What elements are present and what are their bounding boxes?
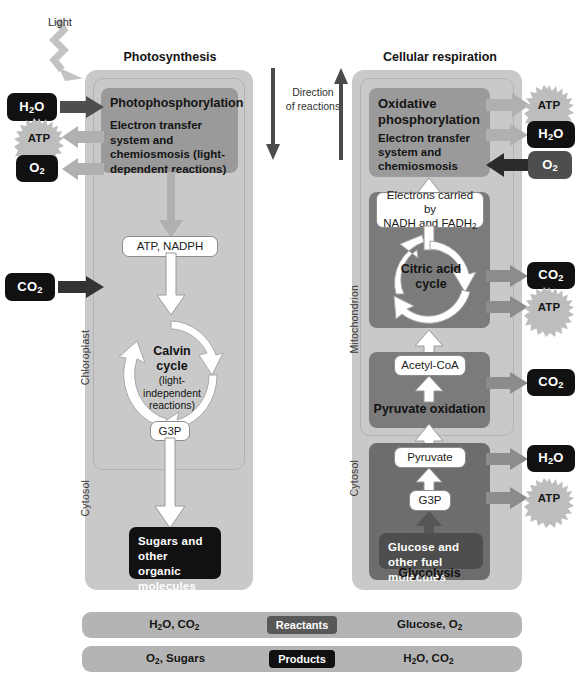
photophosphorylation-subtitle: Electron transfer system and chemiosmosi…	[110, 118, 229, 176]
citric-acid-cycle-labels: Citric acid cycle	[392, 262, 470, 292]
oxygen-input-arrow-icon	[486, 153, 530, 177]
oxphos-title-line1: Oxidative	[378, 96, 437, 111]
respiration-g3p-pill: G3P	[409, 490, 451, 511]
direction-label-line2: of reactions	[286, 100, 340, 112]
photophosphorylation-block: Photophosphorylation Electron transfer s…	[101, 88, 238, 173]
atp-output-badge: ATP	[14, 118, 64, 158]
water-input-label: H2O	[19, 99, 44, 115]
direction-down-arrow-icon	[266, 68, 280, 160]
sugars-output-box: Sugars and other organic molecules	[129, 527, 221, 579]
oxygen-output-badge: O2	[16, 155, 58, 182]
calvin-cycle-detail-line2: independent	[143, 387, 201, 399]
photophosphorylation-title: Photophosphorylation	[110, 96, 229, 111]
g3p-to-pyruvate-arrow-icon	[416, 468, 442, 492]
co2-pyruvate-output-badge: CO2	[527, 369, 575, 396]
pyruvate-oxidation-title: Pyruvate oxidation	[369, 402, 490, 416]
legend-products-left: O2, Sugars	[82, 652, 269, 666]
legend-reactants-left: H2O, CO2	[82, 618, 267, 632]
g3p-to-sugars-arrow-icon	[155, 438, 185, 528]
oxygen-input-label: O2	[542, 157, 558, 173]
respiration-cytosol-label: Cytosol	[348, 460, 362, 496]
products-badge: Products	[269, 650, 335, 668]
atp-glycolysis-output-label: ATP	[538, 492, 561, 504]
water-input-badge: H2O	[7, 93, 57, 121]
carbon-dioxide-input-badge: CO2	[5, 273, 55, 301]
citric-acid-cycle-name-line2: cycle	[415, 277, 446, 291]
calvin-cycle-labels: Calvin cycle (light- independent reactio…	[136, 344, 208, 412]
legend-products-right: H2O, CO2	[335, 652, 522, 666]
water-glycolysis-output-label: H2O	[538, 450, 563, 466]
figure-root: Photosynthesis Light Chloroplast Cytosol…	[0, 0, 588, 683]
legend-row-reactants: H2O, CO2 Reactants Glucose, O2	[82, 612, 522, 638]
legend-reactants-right: Glucose, O2	[337, 618, 522, 632]
water-oxphos-output-badge: H2O	[527, 121, 575, 148]
acetyl-coa-pill: Acetyl-CoA	[394, 355, 466, 376]
oxygen-input-badge: O2	[528, 151, 572, 179]
glucose-input-box: Glucose and other fuel molecules	[379, 533, 483, 569]
oxidative-phosphorylation-subtitle: Electron transfer system and chemiosmosi…	[378, 131, 481, 174]
legend-reactants-badge-cell: Reactants	[267, 619, 338, 631]
legend-products-badge-cell: Products	[269, 653, 335, 665]
atp-citric-output-label: ATP	[538, 301, 561, 313]
photosynthesis-heading: Photosynthesis	[85, 50, 255, 64]
atp-citric-output-arrow-icon	[486, 296, 528, 318]
acetyl-coa-label: Acetyl-CoA	[401, 358, 459, 372]
direction-up-arrow-icon	[334, 68, 348, 160]
water-oxphos-output-label: H2O	[538, 126, 563, 142]
sugars-output-label: Sugars and other organic molecules	[138, 535, 203, 592]
oxidative-phosphorylation-block: Oxidative phosphorylation Electron trans…	[369, 88, 490, 177]
light-label: Light	[48, 16, 72, 28]
citric-acid-cycle-name-line1: Citric acid	[401, 262, 461, 276]
cellular-respiration-heading: Cellular respiration	[355, 50, 525, 64]
atp-output-label: ATP	[28, 132, 51, 144]
electrons-carried-pill: Electrons carried by NADH and FADH2	[376, 192, 484, 228]
co2-citric-output-arrow-icon	[486, 265, 528, 287]
calvin-cycle-name-line2: cycle	[156, 359, 187, 373]
co2-pyruvate-output-label: CO2	[538, 374, 563, 390]
atp-glycolysis-output-badge: ATP	[524, 478, 574, 518]
atp-glycolysis-output-arrow-icon	[486, 487, 528, 509]
photosynthesis-g3p-label: G3P	[158, 424, 181, 438]
atp-output-arrow-icon	[62, 126, 104, 148]
atp-nadph-label: ATP, NADPH	[137, 239, 204, 253]
photophosphorylation-to-carrier-arrow-icon	[159, 172, 183, 238]
water-glycolysis-output-badge: H2O	[527, 445, 575, 472]
atp-oxphos-output-label: ATP	[538, 99, 561, 111]
calvin-cycle-detail-line3: reactions)	[149, 399, 195, 411]
calvin-cycle-detail-line1: (light-	[159, 374, 185, 386]
oxphos-title-line2: phosphorylation	[378, 112, 480, 127]
co2-citric-output-badge: CO2	[527, 262, 575, 289]
oxygen-output-arrow-icon	[62, 158, 104, 180]
reactants-badge: Reactants	[267, 616, 338, 634]
mitochondrion-label: Mitochondrion	[348, 285, 362, 354]
water-input-arrow-icon	[60, 96, 104, 118]
chloroplast-label: Chloroplast	[79, 330, 93, 385]
direction-label-line1: Direction	[292, 86, 333, 98]
water-oxphos-output-arrow-icon	[486, 124, 528, 146]
photosynthesis-cytosol-label: Cytosol	[79, 480, 93, 516]
atp-citric-output-badge: ATP	[524, 287, 574, 327]
carbon-dioxide-input-label: CO2	[17, 279, 42, 295]
respiration-g3p-label: G3P	[418, 493, 441, 507]
pyruvate-pill: Pyruvate	[394, 447, 466, 468]
co2-pyruvate-output-arrow-icon	[486, 372, 528, 394]
oxidative-phosphorylation-title: Oxidative phosphorylation	[378, 96, 481, 129]
pyruvate-oxidation-to-acetyl-arrow-icon	[415, 376, 443, 402]
oxygen-output-label: O2	[29, 160, 45, 176]
calvin-cycle-name-line1: Calvin	[153, 344, 191, 358]
glycolysis-title: Glycolysis	[369, 566, 490, 580]
legend-row-products: O2, Sugars Products H2O, CO2	[82, 646, 522, 672]
carbon-dioxide-input-arrow-icon	[58, 276, 104, 298]
carrier-to-calvin-arrow-icon	[157, 253, 185, 315]
atp-oxphos-output-badge: ATP	[524, 85, 574, 125]
pyruvate-label: Pyruvate	[407, 450, 452, 464]
water-glycolysis-output-arrow-icon	[486, 448, 528, 470]
co2-citric-output-label: CO2	[538, 267, 563, 283]
